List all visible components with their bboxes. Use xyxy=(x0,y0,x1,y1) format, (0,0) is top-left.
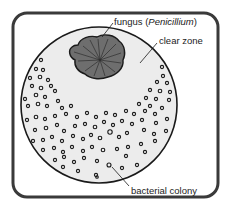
clear-zone-label: clear zone xyxy=(159,36,203,46)
fungus-label: fungus (Penicillium) xyxy=(114,17,197,27)
petri-dish-diagram xyxy=(0,0,227,214)
bacterial-colony-label: bacterial colony xyxy=(131,186,197,196)
fungus-label-genus: Penicillium xyxy=(148,16,193,27)
fungus-label-suffix: ) xyxy=(194,16,197,27)
fungus-label-prefix: fungus ( xyxy=(114,16,148,27)
